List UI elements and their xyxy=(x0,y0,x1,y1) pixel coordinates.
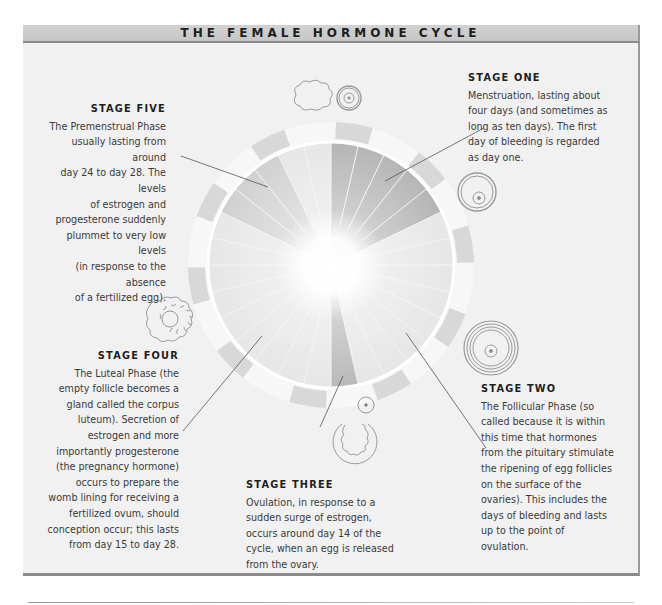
stage-three-heading: STAGE THREE xyxy=(246,477,416,493)
stage-two-line: ovulation. xyxy=(481,539,641,555)
footer-divider xyxy=(28,602,634,603)
ruptured-follicle-icon xyxy=(333,424,377,464)
stage-four-line: The Luteal Phase (the xyxy=(42,366,179,382)
stage-one-line: day of bleeding is regarded xyxy=(468,134,628,150)
stage-five-heading: STAGE FIVE xyxy=(42,101,166,117)
stage-four-line: importantly progesterone xyxy=(42,444,179,460)
stage-four-block: STAGE FOUR The Luteal Phase (the empty f… xyxy=(42,348,179,553)
follicle-growing-icon xyxy=(458,173,496,211)
stage-three-line: sudden surge of estrogen, xyxy=(246,510,416,526)
stage-two-line: the ripening of egg follicles xyxy=(481,461,641,477)
follicle-mature-icon xyxy=(464,321,518,375)
stage-five-line: of a fertilized egg). xyxy=(42,290,166,306)
stage-two-line: The Follicular Phase (so xyxy=(481,399,641,415)
stage-two-heading: STAGE TWO xyxy=(481,381,641,397)
leader-line-stage-two xyxy=(406,333,486,448)
stage-three-block: STAGE THREE Ovulation, in response to a … xyxy=(246,477,416,573)
stage-four-line: estrogen and more xyxy=(42,428,179,444)
stage-four-line: gland called the corpus xyxy=(42,397,179,413)
stage-four-line: (the pregnancy hormone) xyxy=(42,459,179,475)
stage-five-line: (in response to the absence xyxy=(42,259,166,290)
stage-five-line: plummet to very low levels xyxy=(42,228,166,259)
stage-four-line: luteum). Secretion of xyxy=(42,412,179,428)
stage-one-line: Menstruation, lasting about xyxy=(468,88,628,104)
stage-five-line: of estrogen and xyxy=(42,197,166,213)
stage-four-line: empty follicle becomes a xyxy=(42,381,179,397)
stage-two-line: up to the point of xyxy=(481,523,641,539)
stage-one-line: four days (and sometimes as xyxy=(468,103,628,119)
stage-four-line: occurs to prepare the xyxy=(42,475,179,491)
follicle-early-icon xyxy=(337,86,361,110)
stage-two-line: days of bleeding and lasts xyxy=(481,508,641,524)
stage-one-block: STAGE ONE Menstruation, lasting about fo… xyxy=(468,70,628,166)
stage-three-line: Ovulation, in response to a xyxy=(246,495,416,511)
stage-two-line: on the surface of the xyxy=(481,477,641,493)
stage-three-line: from the ovary. xyxy=(246,557,416,573)
stage-two-line: from the pituitary stimulate xyxy=(481,445,641,461)
stage-five-line: progesterone suddenly xyxy=(42,212,166,228)
stage-one-line: long as ten days). The first xyxy=(468,119,628,135)
stage-four-heading: STAGE FOUR xyxy=(42,348,179,364)
stage-one-line: as day one. xyxy=(468,150,628,166)
stage-two-line: ovaries). This includes the xyxy=(481,492,641,508)
stage-five-line: The Premenstrual Phase xyxy=(42,119,166,135)
stage-two-line: this time that hormones xyxy=(481,430,641,446)
stage-four-line: conception occur; this lasts xyxy=(42,522,179,538)
stage-three-line: cycle, when an egg is released xyxy=(246,541,416,557)
stage-four-line: womb lining for receiving a xyxy=(42,490,179,506)
stage-five-line: usually lasting from around xyxy=(42,134,166,165)
stage-two-line: called because it is within xyxy=(481,414,641,430)
stage-two-block: STAGE TWO The Follicular Phase (so calle… xyxy=(481,381,641,555)
stage-five-block: STAGE FIVE The Premenstrual Phase usuall… xyxy=(42,101,166,306)
menstruation-cell-icon xyxy=(294,80,332,110)
stage-four-line: from day 15 to day 28. xyxy=(42,537,179,553)
stage-four-line: fertilized ovum, should xyxy=(42,506,179,522)
stage-three-line: occurs around day 14 of the xyxy=(246,526,416,542)
stage-one-heading: STAGE ONE xyxy=(468,70,628,86)
stage-five-line: day 24 to day 28. The levels xyxy=(42,165,166,196)
